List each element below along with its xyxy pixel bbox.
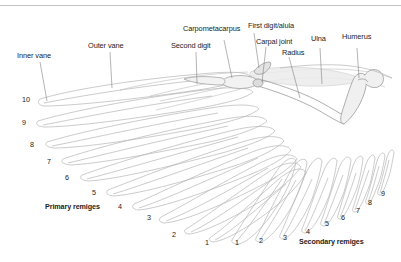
label-ulna: Ulna xyxy=(311,35,326,42)
secondary-number: 5 xyxy=(325,220,329,227)
label-inner-vane: Inner vane xyxy=(17,52,51,59)
primary-number: 10 xyxy=(22,96,30,103)
wing-illustration xyxy=(0,0,401,262)
bird-wing-anatomy-figure: Inner vane Outer vane Second digit Carpo… xyxy=(0,0,401,262)
primary-number: 9 xyxy=(22,119,26,126)
label-outer-vane: Outer vane xyxy=(88,42,124,49)
secondary-number: 6 xyxy=(341,214,345,221)
primary-number: 2 xyxy=(172,231,176,238)
primary-number: 3 xyxy=(147,214,151,221)
primary-number: 1 xyxy=(205,239,209,246)
label-secondary-remiges: Secondary remiges xyxy=(299,238,364,245)
secondary-number: 2 xyxy=(259,237,263,244)
label-second-digit: Second digit xyxy=(171,42,210,49)
primary-number: 7 xyxy=(47,158,51,165)
carpometacarpus-bone xyxy=(222,76,258,89)
primary-number: 8 xyxy=(30,141,34,148)
carpal-joint-bone xyxy=(253,79,263,87)
secondary-number: 4 xyxy=(306,228,310,235)
secondary-number: 8 xyxy=(368,199,372,206)
label-humerus: Humerus xyxy=(342,33,371,40)
label-primary-remiges: Primary remiges xyxy=(45,203,100,210)
label-carpometacarpus: Carpometacarpus xyxy=(183,25,240,32)
primary-number: 4 xyxy=(118,203,122,210)
secondary-number: 9 xyxy=(381,190,385,197)
secondary-number: 1 xyxy=(235,239,239,246)
feather-group-secondaries xyxy=(232,150,394,244)
secondary-number: 7 xyxy=(356,207,360,214)
radius-ulna-bones xyxy=(258,80,350,124)
label-carpal-joint: Carpal joint xyxy=(256,38,292,45)
second-digit-bone xyxy=(184,77,225,85)
label-radius: Radius xyxy=(282,49,304,56)
secondary-number: 3 xyxy=(283,234,287,241)
feather-group-primaries xyxy=(37,72,306,242)
primary-number: 5 xyxy=(92,189,96,196)
label-first-digit-alula: First digit/alula xyxy=(248,22,294,29)
primary-number: 6 xyxy=(65,174,69,181)
